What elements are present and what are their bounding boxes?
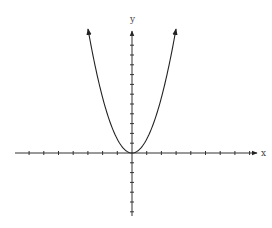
y-axis: y	[129, 14, 136, 216]
x-axis: x	[15, 148, 266, 158]
parabola-graph: x y	[0, 0, 272, 228]
x-axis-label: x	[261, 148, 266, 158]
y-axis-label: y	[129, 14, 136, 24]
